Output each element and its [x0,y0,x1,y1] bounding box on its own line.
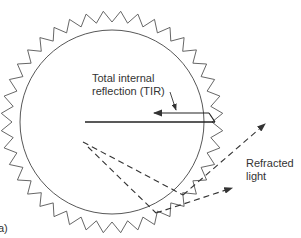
tir-pointer-arrow [170,92,176,110]
refracted-label: Refracted light [246,157,294,183]
panel-label: a) [0,222,8,235]
tir-label-line1: Total internal [92,72,165,85]
dashed-ray-1 [83,142,183,195]
refracted-label-line2: light [246,170,294,183]
refracted-ray-2 [156,188,232,213]
tir-label: Total internal reflection (TIR) [92,72,165,98]
dashed-ray-2 [88,147,156,213]
tir-diagram: Total internal reflection (TIR) Refracte… [0,0,301,238]
tir-label-line2: reflection (TIR) [92,85,165,98]
refracted-label-line1: Refracted [246,157,294,170]
tir-reflection-kink [209,113,215,122]
diagram-canvas [0,0,301,238]
